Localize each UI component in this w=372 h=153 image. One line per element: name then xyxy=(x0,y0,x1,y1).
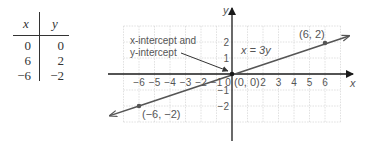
svg-text:−6: −6 xyxy=(133,77,145,88)
equation-label: x = 3y xyxy=(240,44,272,56)
svg-text:2: 2 xyxy=(260,77,266,88)
annotation-arrow xyxy=(181,53,228,71)
x-axis-label: x xyxy=(349,77,356,89)
svg-text:−5: −5 xyxy=(149,77,161,88)
svg-text:6: 6 xyxy=(322,77,328,88)
svg-text:−1: −1 xyxy=(218,85,230,96)
point-label-6-2: (6, 2) xyxy=(299,28,325,40)
svg-text:−2: −2 xyxy=(218,101,230,112)
annotation-intercept-line1: x-intercept and xyxy=(130,35,196,46)
svg-text:4: 4 xyxy=(291,77,297,88)
x-tick-labels: −6 −5 −4 −3 −2 −1 0 2 3 4 5 6 xyxy=(133,77,328,88)
svg-text:−3: −3 xyxy=(180,77,192,88)
svg-text:−4: −4 xyxy=(164,77,176,88)
point-6-2 xyxy=(323,41,328,46)
line-x-equals-3y xyxy=(110,106,139,116)
point-neg6-neg2 xyxy=(137,104,142,109)
svg-text:2: 2 xyxy=(223,37,229,48)
y-axis-label: y xyxy=(222,4,230,16)
point-label-neg6-neg2: (−6, −2) xyxy=(142,108,181,120)
svg-text:3: 3 xyxy=(276,77,282,88)
svg-text:1: 1 xyxy=(223,53,229,64)
svg-text:5: 5 xyxy=(307,77,313,88)
point-label-origin: (0, 0) xyxy=(234,76,260,88)
coordinate-graph: x y −6 −5 −4 −3 −2 −1 0 2 3 4 5 6 2 1 −1… xyxy=(0,0,372,153)
annotation-intercept-line2: y-intercept xyxy=(130,47,177,58)
